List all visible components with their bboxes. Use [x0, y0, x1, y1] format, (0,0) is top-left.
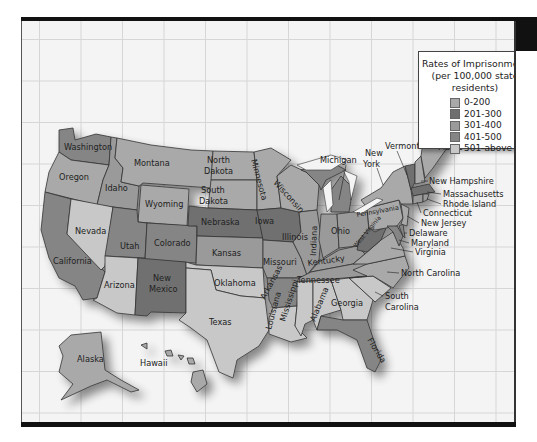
label-oklahoma: Oklahoma	[214, 278, 256, 288]
state-alaska	[59, 332, 139, 400]
legend-item: 301-400	[450, 120, 516, 132]
legend-item: 501-above	[450, 143, 516, 155]
label-new-york-1: New	[365, 148, 383, 158]
legend-swatch-301-400	[450, 121, 460, 131]
label-north-dakota-1: North	[207, 155, 230, 165]
label-montana: Montana	[134, 158, 170, 168]
label-kansas: Kansas	[212, 248, 241, 258]
label-south-carolina-1: South	[385, 291, 409, 301]
label-south-dakota-2: Dakota	[199, 196, 228, 206]
label-oregon: Oregon	[59, 172, 89, 182]
label-illinois: Illinois	[282, 232, 308, 242]
label-washington: Washington	[64, 142, 112, 152]
label-vermont: Vermont	[385, 141, 420, 151]
label-utah: Utah	[120, 241, 139, 251]
label-massachusetts: Massachusetts	[443, 189, 504, 199]
legend-swatch-401-500	[450, 132, 460, 142]
label-arizona: Arizona	[104, 280, 135, 290]
label-georgia: Georgia	[331, 298, 363, 308]
legend-label: 0-200	[464, 97, 490, 109]
legend-label: 501-above	[464, 143, 512, 155]
legend-swatch-0-200	[450, 98, 460, 108]
label-indiana: Indiana	[308, 225, 319, 256]
state-rhode-island	[423, 194, 429, 202]
label-new-jersey: New Jersey	[421, 218, 467, 228]
label-alaska: Alaska	[77, 354, 104, 364]
label-texas: Texas	[208, 317, 232, 327]
label-virginia: Virginia	[415, 247, 446, 257]
label-missouri: Missouri	[263, 257, 297, 267]
label-nebraska: Nebraska	[201, 217, 240, 227]
label-new-mexico-2: Mexico	[149, 284, 178, 294]
legend-subtitle: (per 100,000 state residents)	[419, 70, 516, 94]
label-nevada: Nevada	[75, 226, 106, 236]
state-new-jersey	[401, 204, 409, 226]
legend-label: 201-300	[464, 109, 502, 121]
label-new-hampshire: New Hampshire	[429, 176, 494, 186]
legend-swatch-201-300	[450, 109, 460, 119]
label-new-mexico-1: New	[153, 273, 171, 283]
lake-michigan	[323, 180, 333, 212]
label-california: California	[53, 256, 92, 266]
state-connecticut	[413, 194, 423, 204]
label-wyoming: Wyoming	[145, 199, 183, 209]
label-idaho: Idaho	[105, 183, 128, 193]
label-north-dakota-2: Dakota	[204, 166, 233, 176]
legend-items: 0-200 201-300 301-400 401-500 501-above	[419, 97, 516, 155]
label-iowa: Iowa	[255, 216, 274, 226]
label-hawaii: Hawaii	[140, 358, 167, 368]
label-north-carolina: North Carolina	[401, 268, 460, 278]
label-connecticut: Connecticut	[423, 208, 473, 218]
label-michigan: Michigan	[320, 155, 357, 165]
label-new-york-2: York	[362, 159, 380, 169]
legend-item: 0-200	[450, 97, 516, 109]
state-new-york	[361, 166, 413, 208]
legend-label: 301-400	[464, 120, 502, 132]
label-maryland: Maryland	[411, 238, 449, 248]
map-frame: Washington Oregon California Idaho Nevad…	[21, 21, 516, 423]
frame-bottom-border	[21, 422, 516, 427]
legend-swatch-501-above	[450, 144, 460, 154]
legend-label: 401-500	[464, 132, 502, 144]
label-colorado: Colorado	[154, 238, 191, 248]
label-south-carolina-2: Carolina	[385, 302, 419, 312]
legend-item: 201-300	[450, 109, 516, 121]
label-ohio: Ohio	[331, 226, 350, 236]
legend-item: 401-500	[450, 132, 516, 144]
label-delaware: Delaware	[409, 228, 448, 238]
legend-title: Rates of Imprisonment	[419, 58, 516, 70]
label-tennessee: Tennessee	[296, 275, 340, 285]
label-south-dakota-1: South	[201, 185, 225, 195]
legend: Rates of Imprisonment (per 100,000 state…	[418, 51, 516, 149]
